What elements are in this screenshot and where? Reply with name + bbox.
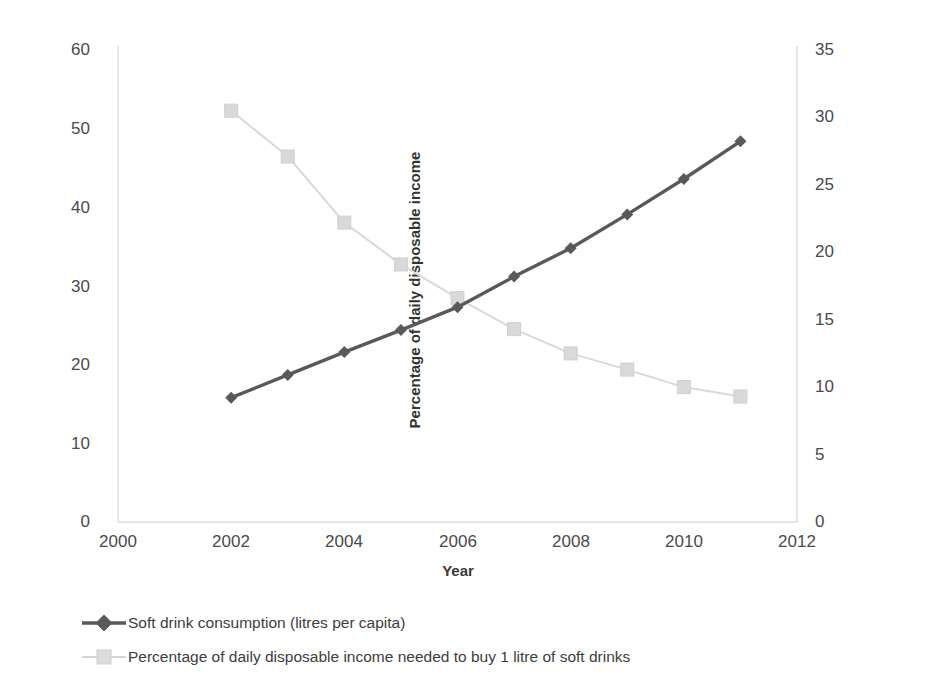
data-point-soft-drink-consumption-2005 — [395, 324, 407, 336]
data-point-percentage-income-2005 — [394, 258, 407, 271]
legend-label-percentage-income: Percentage of daily disposable income ne… — [128, 648, 630, 666]
data-point-percentage-income-2002 — [225, 104, 238, 117]
data-point-percentage-income-2010 — [677, 381, 690, 394]
legend-key-diamond-icon — [80, 614, 128, 632]
chart-legend: Soft drink consumption (litres per capit… — [80, 606, 920, 674]
legend-label-soft-drink-consumption: Soft drink consumption (litres per capit… — [128, 614, 405, 632]
data-point-percentage-income-2009 — [621, 363, 634, 376]
data-point-percentage-income-2003 — [281, 150, 294, 163]
data-point-percentage-income-2008 — [564, 347, 577, 360]
data-point-percentage-income-2007 — [508, 323, 521, 336]
legend-item-percentage-income[interactable]: Percentage of daily disposable income ne… — [80, 640, 920, 674]
series-percentage-income — [225, 104, 747, 403]
data-point-soft-drink-consumption-2003 — [282, 369, 294, 381]
data-point-percentage-income-2004 — [338, 216, 351, 229]
data-point-soft-drink-consumption-2004 — [338, 346, 350, 358]
data-point-percentage-income-2011 — [734, 390, 747, 403]
plot-area — [0, 0, 927, 694]
data-point-soft-drink-consumption-2002 — [225, 392, 237, 404]
chart-figure: Soft drink consumption (litres per capit… — [0, 0, 927, 694]
legend-item-soft-drink-consumption[interactable]: Soft drink consumption (litres per capit… — [80, 606, 920, 640]
legend-key-square-icon — [80, 648, 128, 666]
series-line-percentage-income — [231, 111, 740, 397]
